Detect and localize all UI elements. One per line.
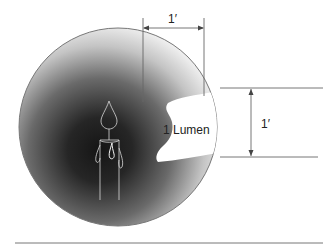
side-dimension [220, 88, 323, 157]
lumen-diagram: 1 Lumen 1′ 1′ [0, 0, 333, 248]
lumen-label: 1 Lumen [163, 123, 210, 137]
top-dimension-label: 1′ [168, 12, 178, 26]
side-dimension-label: 1′ [261, 117, 271, 131]
